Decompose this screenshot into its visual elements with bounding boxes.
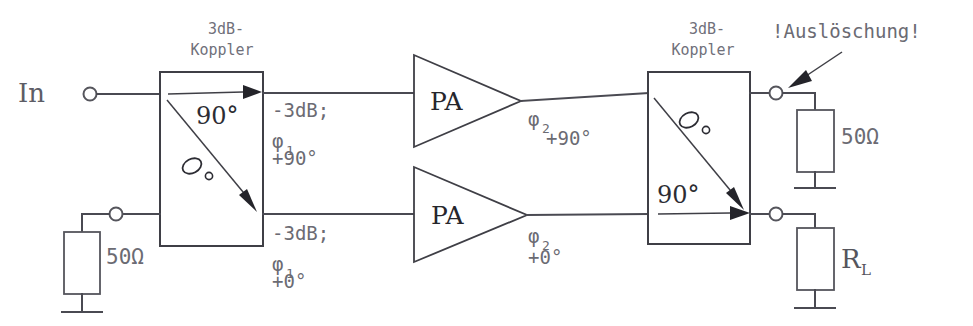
bottom-after-pa-phi: φ (528, 225, 539, 247)
bottom-after-pa-line2: +0° (528, 246, 562, 268)
top-branch-line1: -3dB; (272, 99, 329, 121)
input-label: In (18, 78, 45, 108)
input-coupler-group[interactable]: 3dB- Koppler 90° (160, 20, 263, 246)
output-coupler-iso-load-group: 50Ω (750, 87, 879, 189)
output-coupler-group[interactable]: 3dB- Koppler 90° (648, 20, 750, 244)
top-after-pa-phi: φ (528, 108, 539, 130)
circuit-diagram: In 3dB- Koppler 90° 50Ω -3dB; φ (0, 0, 973, 326)
pa-top-group[interactable]: PA (414, 55, 648, 147)
output-coupler-through-arrow-line (658, 213, 730, 214)
resistor-load-label-sub: L (861, 261, 871, 279)
input-coupler-iso-load-group: 50Ω (62, 208, 160, 313)
input-group: In (18, 78, 160, 108)
load-group: R L (750, 208, 871, 309)
wire-pa-bottom-to-coupler (527, 214, 648, 215)
bottom-branch-group: -3dB; φ 1 +0° (263, 214, 414, 292)
resistor-load-label: R (841, 244, 862, 274)
resistor-50ohm-left (64, 232, 100, 294)
output-coupler-heading-line2: Koppler (671, 41, 734, 59)
annotation-text: !Auslöschung! (772, 20, 921, 42)
resistor-load (797, 228, 834, 290)
bottom-branch-line1: -3dB; (272, 222, 329, 244)
output-coupler-through-label: 90° (657, 181, 700, 209)
output-coupler-heading-line1: 3dB- (689, 20, 725, 38)
annotation-arrowhead-icon (788, 70, 812, 88)
pa-bottom-label: PA (431, 201, 465, 230)
input-terminal-icon[interactable] (84, 88, 97, 101)
input-coupler-heading-line1: 3dB- (208, 20, 244, 38)
bottom-after-pa-label-group: φ 2 +0° (528, 225, 562, 268)
schematic-svg: In 3dB- Koppler 90° 50Ω -3dB; φ (0, 0, 973, 326)
iso-terminal-left-icon[interactable] (110, 208, 123, 221)
top-after-pa-line2: +90° (546, 127, 592, 149)
iso-terminal-right-icon[interactable] (770, 87, 783, 100)
resistor-50ohm-right-label: 50Ω (841, 125, 879, 149)
resistor-50ohm-right (797, 110, 834, 172)
wire-pa-top-to-coupler (521, 93, 648, 101)
bottom-branch-line3: +0° (272, 270, 306, 292)
annotation-group: !Auslöschung! (772, 20, 921, 88)
pa-top-label: PA (430, 87, 464, 116)
top-after-pa-label-group: φ 2 +90° (528, 108, 592, 149)
input-coupler-through-label: 90° (196, 102, 239, 130)
load-terminal-icon[interactable] (770, 208, 783, 221)
input-coupler-heading-line2: Koppler (190, 41, 253, 59)
input-coupler-box[interactable] (160, 72, 263, 246)
top-branch-line3: +90° (272, 147, 318, 169)
resistor-50ohm-left-label: 50Ω (106, 245, 144, 269)
top-branch-group: -3dB; φ 1 +90° (263, 93, 414, 169)
